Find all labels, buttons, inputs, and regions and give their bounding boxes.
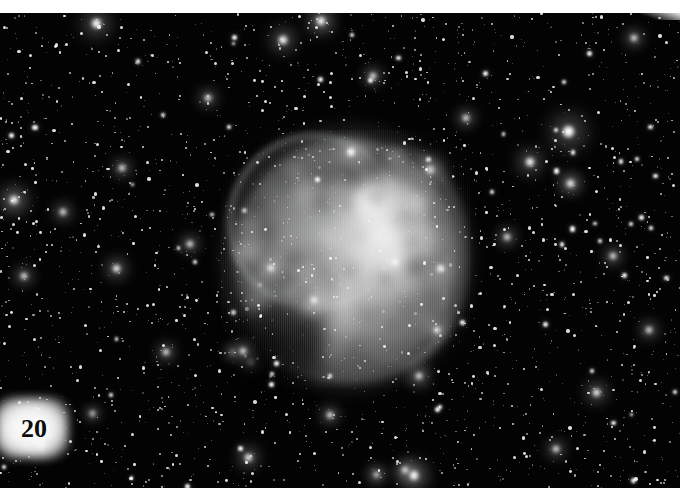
star — [573, 194, 574, 195]
star — [608, 29, 610, 31]
star — [315, 469, 317, 471]
star — [426, 250, 427, 251]
star — [301, 157, 303, 159]
star — [305, 281, 307, 283]
star — [69, 250, 70, 251]
star — [343, 268, 345, 270]
star — [223, 172, 225, 174]
star — [33, 338, 36, 341]
star — [124, 140, 125, 141]
star — [289, 62, 290, 63]
star — [403, 306, 404, 307]
star — [542, 290, 543, 291]
star — [468, 96, 469, 97]
star — [592, 23, 594, 25]
star — [3, 342, 6, 345]
star — [39, 310, 41, 312]
star — [629, 186, 630, 187]
star — [170, 160, 172, 162]
star — [161, 475, 163, 477]
star — [126, 92, 127, 93]
star — [323, 91, 325, 93]
star — [404, 291, 406, 293]
star — [459, 266, 461, 268]
star — [538, 369, 539, 370]
star — [236, 58, 237, 59]
star — [648, 216, 650, 218]
star — [210, 42, 212, 44]
star — [361, 249, 362, 250]
star — [489, 180, 490, 181]
star — [622, 273, 627, 278]
star — [464, 419, 465, 420]
star — [157, 386, 159, 388]
star — [181, 252, 182, 253]
star — [454, 250, 456, 252]
star — [433, 27, 434, 28]
star — [463, 325, 464, 326]
star — [69, 237, 71, 239]
star — [5, 314, 7, 316]
star — [269, 382, 274, 387]
star — [219, 472, 221, 474]
star — [172, 346, 174, 348]
star — [589, 303, 590, 304]
star — [442, 38, 445, 41]
star — [213, 139, 215, 141]
star — [581, 115, 583, 117]
star — [297, 269, 300, 272]
star — [159, 245, 161, 247]
star — [553, 292, 554, 293]
star — [21, 267, 22, 268]
star — [260, 314, 263, 317]
star — [237, 338, 239, 340]
star — [239, 241, 240, 242]
star — [464, 52, 466, 54]
star — [218, 423, 220, 425]
star — [103, 176, 104, 177]
star — [272, 333, 274, 335]
star — [419, 60, 421, 62]
star — [22, 137, 23, 138]
star — [543, 398, 544, 399]
star — [329, 257, 332, 260]
star — [27, 76, 29, 78]
star — [142, 392, 144, 394]
star — [638, 43, 639, 44]
star — [220, 414, 222, 416]
star — [371, 251, 372, 252]
star — [302, 266, 305, 269]
star — [313, 312, 315, 314]
star — [652, 440, 654, 442]
star — [419, 457, 421, 459]
star — [311, 20, 313, 22]
star — [491, 75, 492, 76]
star — [428, 101, 430, 103]
star — [29, 54, 32, 57]
star — [409, 222, 410, 223]
bright-star — [631, 35, 637, 41]
star — [139, 420, 141, 422]
star — [335, 52, 337, 54]
star — [95, 251, 97, 253]
star — [512, 186, 514, 188]
star — [475, 208, 477, 210]
star — [240, 181, 242, 183]
star — [648, 304, 649, 305]
star — [340, 275, 341, 276]
star — [121, 456, 122, 457]
star — [456, 368, 457, 369]
bright-star — [187, 241, 193, 247]
star — [613, 290, 614, 291]
star — [184, 306, 186, 308]
star — [206, 109, 207, 110]
star — [216, 110, 218, 112]
star — [330, 105, 333, 108]
star — [211, 440, 213, 442]
star — [126, 118, 128, 120]
bright-star — [60, 209, 66, 215]
star — [73, 161, 75, 163]
star — [47, 208, 50, 211]
star — [548, 486, 550, 488]
star — [231, 330, 233, 332]
